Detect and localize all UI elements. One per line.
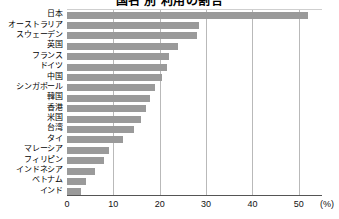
y-axis-label: 台湾 <box>47 124 63 132</box>
bar-row <box>67 104 322 114</box>
bar <box>67 32 197 39</box>
y-axis-label: ドイツ <box>40 62 63 70</box>
bar <box>67 22 199 29</box>
y-axis-label: インド <box>40 187 63 195</box>
bar-row <box>67 83 322 93</box>
bar <box>67 53 169 60</box>
x-axis-tick-10: 10 <box>108 199 118 209</box>
x-axis-unit-label: (%) <box>320 199 334 209</box>
bar-row <box>67 124 322 134</box>
bar <box>67 43 178 50</box>
x-axis-tick-20: 20 <box>155 199 165 209</box>
bar-rows <box>67 10 322 195</box>
bar-row <box>67 114 322 124</box>
x-axis-tick-0: 0 <box>64 199 69 209</box>
bar-row <box>67 41 322 51</box>
y-axis-label: 香港 <box>47 104 63 112</box>
y-axis-category-labels: 日本オーストラリアスウェーデン英国フランスドイツ中国シンガポール韓国香港米国台湾… <box>0 9 65 196</box>
bar <box>67 136 123 143</box>
bar <box>67 168 95 175</box>
bar <box>67 84 155 91</box>
x-axis-tick-30: 30 <box>201 199 211 209</box>
bar <box>67 188 81 195</box>
x-axis-tick-40: 40 <box>247 199 257 209</box>
y-axis-label: インドネシア <box>16 166 63 174</box>
bar-row <box>67 52 322 62</box>
y-axis-label: フランス <box>32 52 63 60</box>
y-axis-label: 米国 <box>47 114 63 122</box>
bar <box>67 147 109 154</box>
bar <box>67 95 150 102</box>
bar-row <box>67 10 322 20</box>
bar <box>67 105 146 112</box>
y-axis-label: タイ <box>47 135 63 143</box>
bar <box>67 74 162 81</box>
y-axis-label: マレーシア <box>24 145 63 153</box>
y-axis-label: スウェーデン <box>16 31 63 39</box>
bar-chart: 国名 別 利用の割合 日本オーストラリアスウェーデン英国フランスドイツ中国シンガ… <box>0 0 339 219</box>
bar-row <box>67 93 322 103</box>
bar-row <box>67 135 322 145</box>
bar-row <box>67 62 322 72</box>
bar <box>67 157 104 164</box>
y-axis-label: ベトナム <box>32 176 63 184</box>
bar-row <box>67 72 322 82</box>
y-axis-label: 英国 <box>47 41 63 49</box>
chart-title: 国名 別 利用の割合 <box>0 0 339 8</box>
bar-row <box>67 31 322 41</box>
y-axis-label: 韓国 <box>47 93 63 101</box>
bar <box>67 116 141 123</box>
y-axis-label: 日本 <box>47 10 63 18</box>
bar <box>67 126 134 133</box>
y-axis-label: シンガポール <box>16 83 63 91</box>
y-axis-label: フィリピン <box>24 156 63 164</box>
plot-area <box>67 9 322 196</box>
x-axis-tick-50: 50 <box>294 199 304 209</box>
bar-row <box>67 155 322 165</box>
bar <box>67 64 167 71</box>
bar-row <box>67 166 322 176</box>
bar <box>67 12 308 19</box>
bar-row <box>67 145 322 155</box>
y-axis-label: オーストラリア <box>8 21 63 29</box>
bar <box>67 178 86 185</box>
bar-row <box>67 187 322 197</box>
bar-row <box>67 176 322 186</box>
bar-row <box>67 20 322 30</box>
y-axis-label: 中国 <box>47 73 63 81</box>
